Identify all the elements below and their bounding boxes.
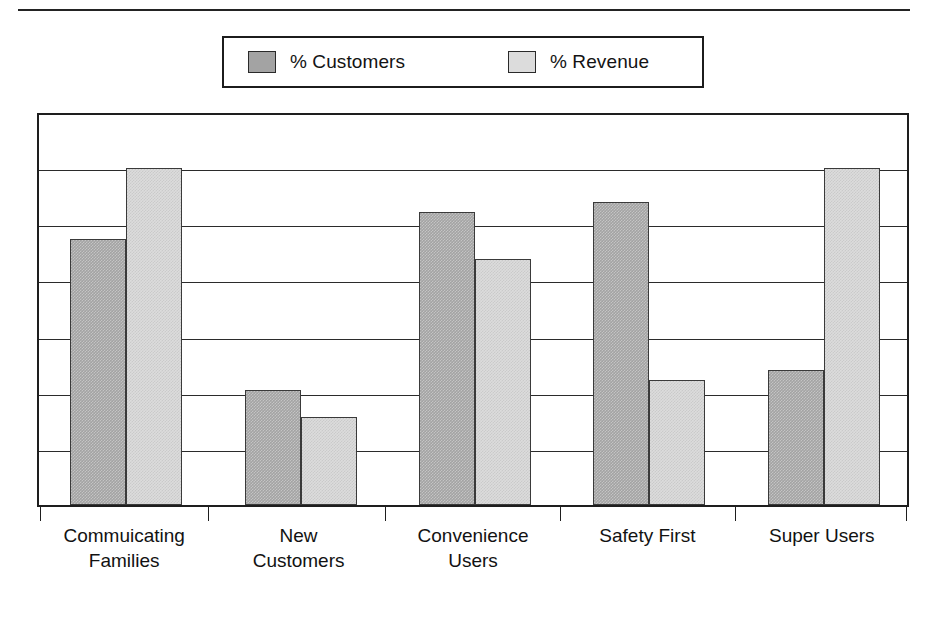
bar-customers-4: [768, 370, 824, 505]
legend-swatch-customers-icon: [248, 51, 276, 73]
x-axis-tick-1: [208, 507, 209, 521]
legend-label-revenue: % Revenue: [550, 51, 649, 73]
category-label-3: Safety First: [560, 523, 734, 548]
x-axis-category-labels: CommuicatingFamiliesNewCustomersConvenie…: [37, 523, 909, 593]
legend-entry-customers: % Customers: [248, 38, 405, 86]
category-label-2: ConvenienceUsers: [386, 523, 560, 573]
x-axis-tick-5: [906, 507, 907, 521]
bar-customers-3: [593, 202, 649, 505]
category-label-line: Safety First: [560, 523, 734, 548]
category-label-line: Customers: [211, 548, 385, 573]
top-divider-rule: [18, 9, 910, 11]
category-label-0: CommuicatingFamilies: [37, 523, 211, 573]
chart-legend: % Customers % Revenue: [222, 36, 704, 88]
legend-swatch-revenue-icon: [508, 51, 536, 73]
category-label-line: New: [211, 523, 385, 548]
category-label-line: Super Users: [735, 523, 909, 548]
bars-layer: [39, 115, 907, 505]
legend-entry-revenue: % Revenue: [508, 38, 649, 86]
x-axis-tick-0: [40, 507, 41, 521]
category-label-1: NewCustomers: [211, 523, 385, 573]
category-label-line: Commuicating: [37, 523, 211, 548]
x-axis-tick-3: [560, 507, 561, 521]
category-label-4: Super Users: [735, 523, 909, 548]
bar-customers-2: [419, 212, 475, 505]
category-label-line: Convenience: [386, 523, 560, 548]
bar-revenue-0: [126, 168, 182, 505]
bar-revenue-2: [475, 259, 531, 505]
x-axis-ticks: [37, 507, 909, 521]
legend-label-customers: % Customers: [290, 51, 405, 73]
category-label-line: Users: [386, 548, 560, 573]
bar-revenue-1: [301, 417, 357, 505]
x-axis-tick-2: [385, 507, 386, 521]
bar-revenue-4: [824, 168, 880, 505]
x-axis-tick-4: [735, 507, 736, 521]
bar-revenue-3: [649, 380, 705, 505]
bar-customers-0: [70, 239, 126, 505]
chart-plot-area: [37, 113, 909, 507]
category-label-line: Families: [37, 548, 211, 573]
bar-customers-1: [245, 390, 301, 505]
